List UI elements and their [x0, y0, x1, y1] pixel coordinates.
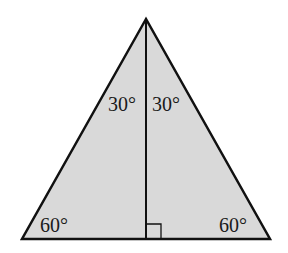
angle-label-apex-right: 30°: [152, 93, 180, 115]
triangle-diagram: 30° 30° 60° 60°: [0, 0, 288, 253]
angle-label-base-left: 60°: [40, 214, 68, 236]
angle-label-base-right: 60°: [219, 214, 247, 236]
angle-label-apex-left: 30°: [108, 93, 136, 115]
